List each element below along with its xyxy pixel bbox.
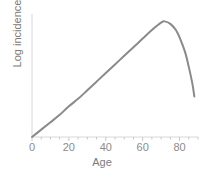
y-axis-label: Log incidence bbox=[12, 0, 23, 89]
axis-lines bbox=[32, 14, 198, 137]
x-axis-tick-label: 20 bbox=[49, 142, 89, 153]
x-axis-tick-label: 0 bbox=[12, 142, 52, 153]
x-axis-tick-label: 40 bbox=[86, 142, 126, 153]
x-axis-label: Age bbox=[0, 157, 204, 168]
x-axis-tick-label: 60 bbox=[123, 142, 163, 153]
chart-container: 020406080 Age Log incidence bbox=[0, 0, 204, 177]
x-axis-tick-label: 80 bbox=[160, 142, 200, 153]
incidence-curve bbox=[32, 21, 194, 137]
